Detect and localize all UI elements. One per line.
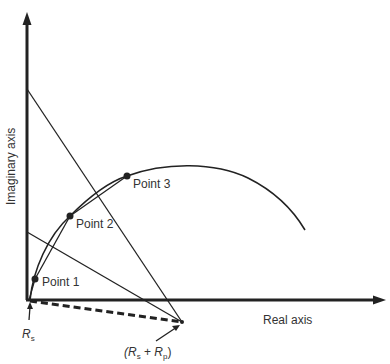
rs-rp-point xyxy=(180,320,184,324)
rs-label: Rs xyxy=(22,327,35,343)
point-3-marker xyxy=(124,173,131,180)
rs-rp-r1: R xyxy=(128,345,137,359)
point-1-label: Point 1 xyxy=(42,275,80,289)
rs-rp-annotation: (Rs + Rp) xyxy=(124,325,180,361)
impedance-diagram: Point 1 Point 2 Point 3 Real axis Imagin… xyxy=(0,0,390,364)
rs-rp-plus: + xyxy=(141,345,155,359)
point-2-marker xyxy=(67,213,74,220)
x-axis-arrowhead xyxy=(373,296,386,305)
y-axis-arrowhead xyxy=(23,12,32,25)
point-3-label: Point 3 xyxy=(133,177,171,191)
rs-rp-r2: R xyxy=(154,345,163,359)
rs-annotation: Rs xyxy=(22,302,35,343)
rs-arrowhead xyxy=(27,302,33,309)
point-1-marker xyxy=(32,276,39,283)
rs-symbol: R xyxy=(22,327,31,341)
rs-rp-close-paren: ) xyxy=(167,345,171,359)
rs-rp-label: (Rs + Rp) xyxy=(124,345,171,361)
point-2-label: Point 2 xyxy=(76,217,114,231)
dashed-radius-line xyxy=(30,301,182,322)
chord-p1-p2 xyxy=(35,216,70,279)
x-axis-label: Real axis xyxy=(263,313,312,327)
rs-rp-arrow-shaft xyxy=(156,327,177,341)
y-axis-label: Imaginary axis xyxy=(4,128,18,205)
chord-p2-p3 xyxy=(70,176,127,216)
rs-subscript: s xyxy=(31,334,35,343)
